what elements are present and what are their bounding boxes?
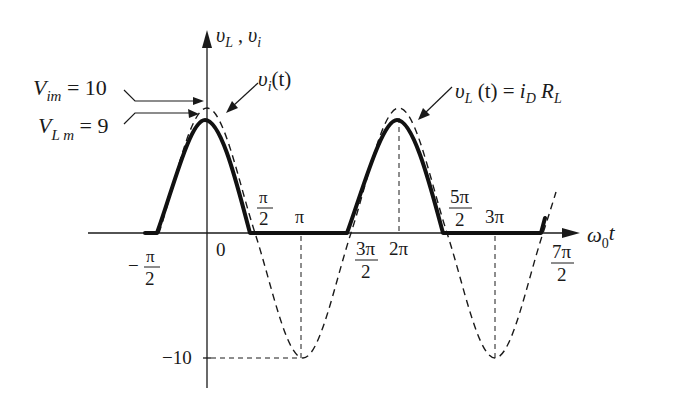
svg-text:2: 2 bbox=[145, 268, 155, 289]
y-axis-label: υL , υi bbox=[216, 24, 261, 50]
x-axis-label: ω0t bbox=[587, 221, 616, 251]
vim-leader bbox=[124, 90, 196, 101]
vim-label: Vim = 10 bbox=[33, 75, 107, 104]
tick-neg-pi-over-2: − π 2 bbox=[128, 247, 160, 289]
y-tick-label-neg-ten: −10 bbox=[162, 347, 192, 368]
vim-arrow-icon bbox=[193, 97, 204, 105]
svg-text:−: − bbox=[128, 255, 139, 276]
vi-leader bbox=[233, 83, 258, 106]
vl-leader bbox=[424, 87, 452, 114]
guide-lines bbox=[211, 118, 495, 358]
tick-five-pi-over-2: 5π 2 bbox=[449, 186, 472, 230]
svg-text:2: 2 bbox=[455, 209, 465, 230]
vi-label: υi(t) bbox=[258, 67, 291, 94]
tick-three-pi: 3π bbox=[485, 206, 505, 227]
tick-seven-pi-over-2: 7π 2 bbox=[551, 241, 574, 285]
svg-text:2: 2 bbox=[361, 261, 371, 282]
svg-text:5π: 5π bbox=[450, 186, 470, 207]
tick-zero: 0 bbox=[216, 239, 226, 260]
svg-text:3π: 3π bbox=[356, 238, 376, 259]
rectifier-waveform-diagram: υL , υi ω0t Vim = 10 VL m = 9 υi(t) υL (… bbox=[0, 0, 697, 400]
tick-pi-over-2: π 2 bbox=[257, 188, 273, 229]
vlm-label: VL m = 9 bbox=[38, 113, 109, 143]
vlm-leader bbox=[124, 113, 191, 124]
svg-text:7π: 7π bbox=[552, 241, 572, 262]
tick-three-pi-over-2: 3π 2 bbox=[355, 238, 378, 282]
svg-text:2: 2 bbox=[259, 208, 269, 229]
y-axis-arrow-icon bbox=[202, 30, 212, 48]
tick-two-pi: 2π bbox=[389, 238, 409, 259]
svg-text:2: 2 bbox=[557, 264, 567, 285]
x-axis-arrow-icon bbox=[562, 228, 580, 238]
tick-pi: π bbox=[295, 207, 304, 227]
vl-label: υL (t) = iD RL bbox=[455, 79, 562, 106]
x-tick-labels: − π 2 0 π 2 π 3π 2 2π 5π 2 3π bbox=[128, 186, 574, 289]
svg-text:π: π bbox=[259, 188, 268, 207]
svg-text:π: π bbox=[146, 247, 155, 266]
